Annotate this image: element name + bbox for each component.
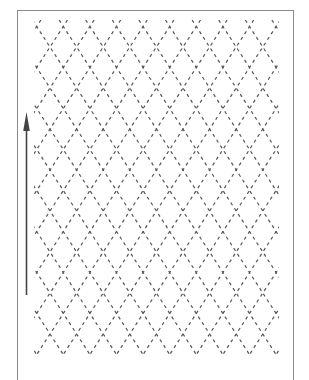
lattice-line-down-left xyxy=(0,20,14,356)
up-arrow-icon xyxy=(23,112,30,295)
diamond-lattice xyxy=(0,20,309,356)
lattice-line-down-right xyxy=(298,20,309,356)
lattice-line-down-right xyxy=(192,20,309,356)
lattice-line-down-right xyxy=(0,20,11,356)
lattice-line-down-left xyxy=(0,20,147,356)
lattice-line-down-right xyxy=(112,20,309,356)
lattice-line-down-right xyxy=(165,20,309,356)
lattice-line-down-left xyxy=(0,20,68,356)
lattice-line-down-left xyxy=(195,20,309,356)
lattice-line-down-left xyxy=(249,20,309,356)
lattice-line-down-left xyxy=(142,20,309,356)
arrow-head xyxy=(23,112,30,131)
lattice-line-down-left xyxy=(0,20,121,356)
lattice-line-down-left xyxy=(222,20,309,356)
lattice-line-down-right xyxy=(272,20,309,356)
lattice-line-down-right xyxy=(0,20,91,356)
lattice-line-down-right xyxy=(0,20,38,356)
lattice-line-down-left xyxy=(169,20,309,356)
lattice-line-down-left xyxy=(275,20,309,356)
lattice-line-down-right xyxy=(0,20,64,356)
lattice-line-down-left xyxy=(0,20,201,356)
lattice-line-down-left xyxy=(302,20,309,356)
lattice-line-down-right xyxy=(219,20,309,356)
lattice-line-down-left xyxy=(0,20,94,356)
lattice-line-down-right xyxy=(0,20,144,356)
